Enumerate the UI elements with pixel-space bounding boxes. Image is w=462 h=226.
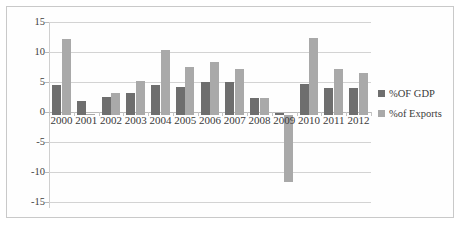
legend-label: %of Exports	[389, 108, 442, 119]
x-tick-label-2004: 2004	[148, 113, 173, 127]
legend-item-gdp[interactable]: %OF GDP	[378, 88, 460, 99]
x-tick-label-2001: 2001	[74, 113, 99, 127]
x-tick-label-2012: 2012	[346, 113, 371, 127]
x-tick-label-2009: 2009	[272, 113, 297, 127]
legend-swatch-icon	[378, 90, 385, 97]
grouped-bar-chart: 15 10 5 0 -5 -10 -15 2000200120022003200…	[0, 0, 462, 226]
x-tick-mark	[371, 112, 372, 116]
bar-exports-2010[interactable]	[309, 38, 318, 115]
bar-exports-2004[interactable]	[161, 50, 170, 115]
bar-exports-2011[interactable]	[334, 69, 343, 115]
bar-gdp-2012[interactable]	[349, 88, 358, 115]
bar-exports-2006[interactable]	[210, 62, 219, 115]
legend-swatch-icon	[378, 110, 385, 117]
bar-exports-2007[interactable]	[235, 69, 244, 115]
x-tick-label-2000: 2000	[49, 113, 74, 127]
legend-item-exports[interactable]: %of Exports	[378, 108, 460, 119]
y-tick-label: 5	[5, 77, 45, 87]
bar-gdp-2011[interactable]	[324, 88, 333, 115]
x-tick-label-2006: 2006	[198, 113, 223, 127]
bar-gdp-2007[interactable]	[225, 82, 234, 115]
bar-exports-2005[interactable]	[185, 67, 194, 115]
y-tick-label: 15	[5, 17, 45, 27]
x-tick-label-2007: 2007	[222, 113, 247, 127]
bar-exports-2012[interactable]	[359, 73, 368, 115]
x-tick-label-2005: 2005	[173, 113, 198, 127]
y-tick-label: -10	[5, 167, 45, 177]
bar-gdp-2006[interactable]	[201, 82, 210, 115]
y-tick-label: 10	[5, 47, 45, 57]
x-tick-label-2011: 2011	[321, 113, 346, 127]
bar-gdp-2000[interactable]	[52, 85, 61, 115]
x-tick-label-2010: 2010	[297, 113, 322, 127]
legend-label: %OF GDP	[389, 88, 435, 99]
y-tick-label: 0	[5, 107, 45, 117]
x-axis-tick-labels: 2000200120022003200420052006200720082009…	[49, 113, 371, 129]
bar-gdp-2005[interactable]	[176, 87, 185, 115]
bar-gdp-2004[interactable]	[151, 85, 160, 115]
bar-exports-2000[interactable]	[62, 39, 71, 115]
chart-legend: %OF GDP %of Exports	[378, 88, 460, 128]
x-tick-label-2003: 2003	[123, 113, 148, 127]
bar-exports-2003[interactable]	[136, 81, 145, 115]
y-tick-label: -15	[5, 197, 45, 207]
x-tick-label-2002: 2002	[99, 113, 124, 127]
y-tick-label: -5	[5, 137, 45, 147]
y-axis-tick-labels: 15 10 5 0 -5 -10 -15	[0, 22, 45, 208]
x-tick-label-2008: 2008	[247, 113, 272, 127]
bar-gdp-2010[interactable]	[300, 84, 309, 115]
